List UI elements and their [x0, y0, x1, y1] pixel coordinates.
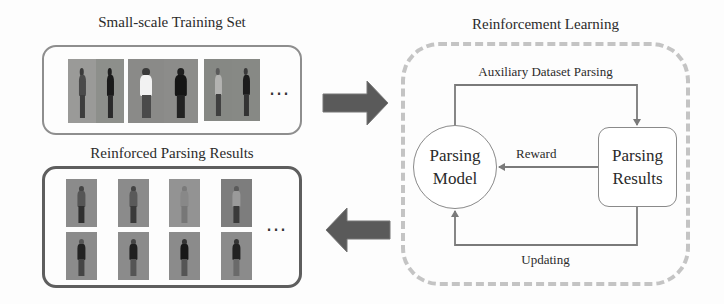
left-arrow-icon	[322, 205, 394, 255]
more-results-ellipsis: …	[265, 213, 289, 235]
result-image-r1c3	[169, 179, 200, 227]
parsing-model-node: Parsing Model	[413, 125, 497, 209]
training-image-2a	[128, 59, 164, 123]
right-arrow-icon	[320, 78, 392, 128]
result-image-r2c2	[118, 232, 149, 280]
training-image-3b	[232, 59, 260, 121]
training-image-1a	[68, 59, 96, 123]
result-image-r1c4	[221, 179, 252, 227]
training-image-1b	[96, 59, 124, 123]
training-set-panel: …	[42, 45, 302, 135]
parsing-results-line1: Parsing	[612, 144, 663, 167]
training-image-3a	[204, 59, 232, 121]
reinforcement-learning-title: Reinforcement Learning	[401, 16, 690, 33]
parsing-model-line1: Parsing	[430, 144, 481, 167]
result-image-r1c2	[118, 179, 149, 227]
reward-label: Reward	[516, 146, 556, 162]
rl-parsing-diagram: Small-scale Training Set … Reinforced Pa…	[0, 0, 724, 304]
updating-label: Updating	[401, 252, 690, 268]
reinforced-results-panel: …	[42, 166, 302, 288]
parsing-results-title: Reinforced Parsing Results	[42, 145, 302, 162]
training-image-2b	[164, 59, 198, 123]
result-image-r1c1	[66, 179, 97, 227]
auxiliary-dataset-parsing-label: Auxiliary Dataset Parsing	[401, 64, 690, 80]
parsing-results-node: Parsing Results	[598, 127, 677, 207]
result-image-r2c1	[66, 232, 97, 280]
result-image-r2c3	[169, 232, 200, 280]
more-images-ellipsis: …	[268, 77, 292, 99]
parsing-results-line2: Results	[612, 167, 663, 190]
result-image-r2c4	[221, 232, 252, 280]
training-set-title: Small-scale Training Set	[42, 14, 302, 31]
parsing-model-line2: Model	[430, 167, 481, 190]
